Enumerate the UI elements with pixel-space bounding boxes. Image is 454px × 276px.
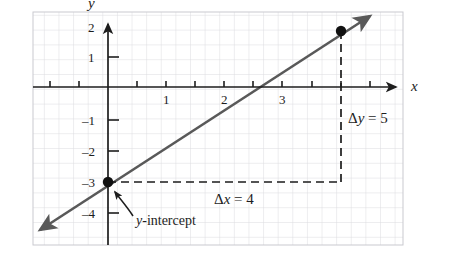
graph-figure: y x 2 1 –1 –2 –3 –4 1 2 3 Δy = 5 Δx = 4 … xyxy=(0,0,454,276)
delta-y-value: = 5 xyxy=(368,110,388,126)
y-axis-label: y xyxy=(88,0,95,11)
delta-x-value: = 4 xyxy=(234,191,254,207)
delta-symbol-x: Δ xyxy=(214,191,224,207)
delta-y-variable: y xyxy=(358,110,365,126)
x-tick-label-2: 2 xyxy=(221,93,228,106)
delta-symbol-y: Δ xyxy=(348,110,358,126)
y-intercept-point xyxy=(103,177,113,187)
y-tick-label-1: 1 xyxy=(88,51,95,64)
x-axis-label: x xyxy=(411,79,418,94)
y-tick-label-neg3: –3 xyxy=(82,176,95,189)
y-tick-label-neg2: –2 xyxy=(82,145,95,158)
delta-y-annotation: Δy = 5 xyxy=(348,111,388,126)
graph-canvas xyxy=(0,0,454,276)
y-tick-label-neg1: –1 xyxy=(82,114,95,127)
y-intercept-callout-label: y-intercept xyxy=(136,214,196,228)
x-tick-label-3: 3 xyxy=(279,93,286,106)
y-tick-label-neg4: –4 xyxy=(82,207,95,220)
y-tick-label-2: 2 xyxy=(88,21,95,34)
delta-x-annotation: Δx = 4 xyxy=(214,192,254,207)
second-point xyxy=(336,26,346,36)
y-intercept-label-text: -intercept xyxy=(142,213,196,228)
x-tick-label-1: 1 xyxy=(163,93,170,106)
delta-x-variable: x xyxy=(224,191,231,207)
